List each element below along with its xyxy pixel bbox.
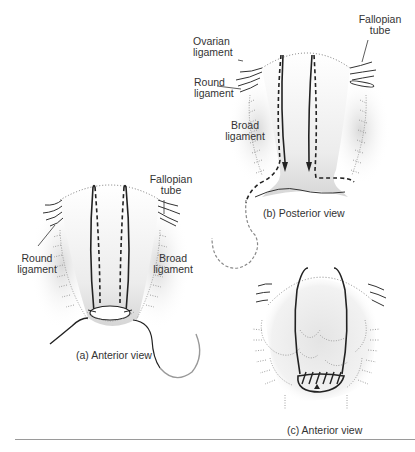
label-b-broad-ligament: Broad ligament xyxy=(220,120,270,142)
label-a-round-ligament: Round ligament xyxy=(12,253,62,275)
label-b-fallopian-tube: Fallopian tube xyxy=(355,14,405,36)
diagram-illustration xyxy=(0,0,415,452)
label-b-round-ligament: Round ligament xyxy=(194,77,244,99)
bottom-divider xyxy=(15,439,415,440)
uterine-suture-diagram: Fallopian tube Ovarian ligament Round li… xyxy=(0,0,415,452)
caption-b-posterior-view: (b) Posterior view xyxy=(263,207,345,219)
caption-c-anterior-view: (c) Anterior view xyxy=(287,424,362,436)
label-a-fallopian-tube: Fallopian tube xyxy=(146,174,196,196)
label-b-ovarian-ligament: Ovarian ligament xyxy=(193,36,243,58)
caption-a-anterior-view: (a) Anterior view xyxy=(76,349,152,361)
label-a-broad-ligament: Broad ligament xyxy=(148,253,198,275)
panel-b-posterior xyxy=(212,40,390,268)
panel-c-anterior-sutured xyxy=(252,268,386,410)
